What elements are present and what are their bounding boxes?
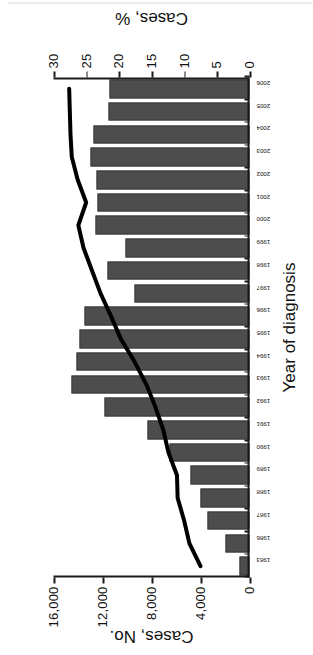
y-axis-left-tick-label: 16,000 <box>46 586 61 627</box>
x-axis-tick-label: 1992 <box>257 397 271 404</box>
y-axis-left-tick-label: 8,000 <box>144 586 159 620</box>
x-axis-tick <box>245 76 250 78</box>
x-axis-tick <box>245 166 250 168</box>
figure-border <box>8 2 306 3</box>
x-axis-tick-label: 2003 <box>257 147 271 154</box>
y-axis-right-tick-label: 30 <box>46 53 61 68</box>
y-axis-left-tick <box>54 577 56 583</box>
y-axis-right-tick-label: 20 <box>111 53 126 68</box>
y-axis-right-title: Cases, % <box>115 7 188 27</box>
x-axis-tick <box>245 326 250 328</box>
x-axis-tick <box>245 280 250 282</box>
y-axis-left-tick <box>152 577 154 583</box>
x-axis-tick-label: 2000 <box>257 215 271 222</box>
y-axis-right-tick <box>184 71 186 77</box>
x-axis-tick-label: 2006 <box>257 79 271 86</box>
y-axis-left-tick <box>201 577 203 583</box>
x-axis-ticks: 1983198619871988198919901991199219931994… <box>250 77 284 577</box>
x-axis-tick-label: 1987 <box>257 511 271 518</box>
y-axis-right-tick <box>250 71 252 77</box>
x-axis-tick-label: 2002 <box>257 170 271 177</box>
x-axis-tick <box>245 98 250 100</box>
x-axis-tick <box>245 462 250 464</box>
y-axis-right-tick <box>54 71 56 77</box>
x-axis-tick-label: 1989 <box>257 465 271 472</box>
x-axis-tick-label: 1983 <box>257 556 271 563</box>
x-axis-tick-label: 1988 <box>257 488 271 495</box>
x-axis-tick <box>245 189 250 191</box>
x-axis-tick-label: 1994 <box>257 352 271 359</box>
x-axis-tick <box>245 212 250 214</box>
y-axis-right-tick-label: 15 <box>144 53 159 68</box>
x-axis-tick-label: 2001 <box>257 193 271 200</box>
y-axis-right-tick-label: 5 <box>209 61 224 68</box>
y-axis-left-title: Cases, No. <box>109 625 193 645</box>
x-axis-tick <box>245 485 250 487</box>
x-axis-tick <box>245 144 250 146</box>
x-axis-tick <box>245 416 250 418</box>
y-axis-left-tick-label: 0 <box>242 586 257 593</box>
x-axis-tick <box>245 530 250 532</box>
x-axis-tick <box>245 348 250 350</box>
x-axis-tick-label: 2004 <box>257 124 271 131</box>
y-axis-right-tick-label: 0 <box>242 61 257 68</box>
x-axis-tick <box>245 507 250 509</box>
chart-figure: 04,0008,00012,00016,000 051015202530 198… <box>8 0 306 655</box>
y-axis-right-tick <box>152 71 154 77</box>
x-axis-tick-label: 1998 <box>257 261 271 268</box>
figure-canvas: 04,0008,00012,00016,000 051015202530 198… <box>8 0 306 655</box>
x-axis-tick-label: 1991 <box>257 420 271 427</box>
x-axis-tick-label: 1990 <box>257 443 271 450</box>
x-axis-tick-label: 1995 <box>257 329 271 336</box>
y-axis-right-tick-label: 25 <box>79 53 94 68</box>
x-axis-tick <box>245 121 250 123</box>
x-axis-tick <box>245 235 250 237</box>
y-axis-right-tick <box>217 71 219 77</box>
x-axis-tick-label: 1986 <box>257 534 271 541</box>
x-axis-title: Year of diagnosis <box>280 77 300 577</box>
x-axis-tick <box>245 439 250 441</box>
x-axis-tick-label: 1993 <box>257 374 271 381</box>
x-axis-tick-label: 1999 <box>257 238 271 245</box>
x-axis-tick-label: 1996 <box>257 306 271 313</box>
y-axis-left-tick-label: 4,000 <box>193 586 208 620</box>
x-axis-tick <box>245 371 250 373</box>
y-axis-right-tick <box>86 71 88 77</box>
x-axis-tick <box>245 553 250 555</box>
y-axis-right-tick <box>119 71 121 77</box>
x-axis-tick-label: 2005 <box>257 102 271 109</box>
x-axis-tick-label: 1997 <box>257 284 271 291</box>
x-axis-tick <box>245 257 250 259</box>
y-axis-left-tick <box>250 577 252 583</box>
line-series <box>54 77 250 577</box>
plot-area: 04,0008,00012,00016,000 051015202530 198… <box>54 77 250 577</box>
x-axis-tick <box>245 394 250 396</box>
y-axis-right-tick-label: 10 <box>177 53 192 68</box>
x-axis-tick <box>245 576 250 578</box>
x-axis-tick <box>245 303 250 305</box>
y-axis-left-tick-label: 12,000 <box>95 586 110 627</box>
y-axis-left-tick <box>103 577 105 583</box>
